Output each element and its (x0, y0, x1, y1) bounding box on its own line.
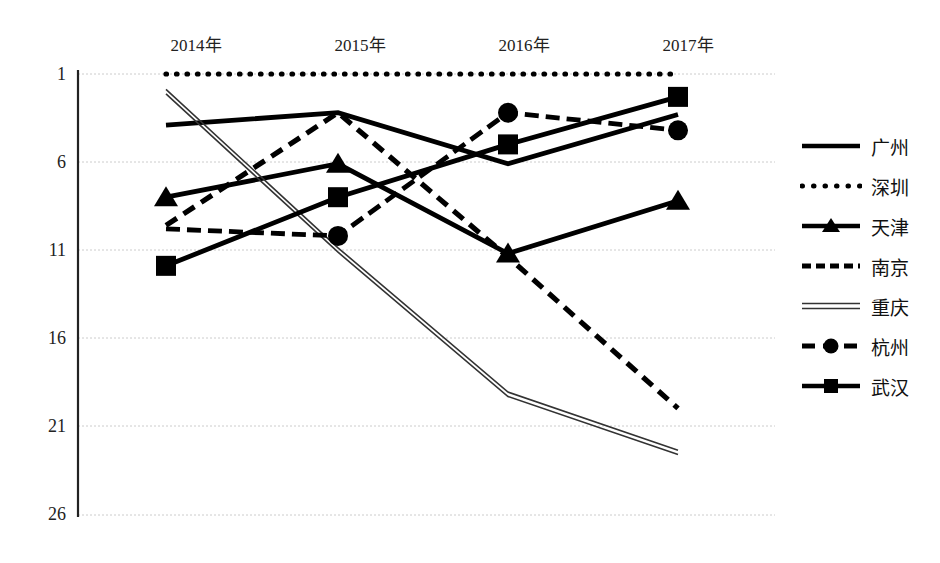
series-4 (166, 89, 678, 454)
rank-line-chart: 2014年 2015年 2016年 2017年 1 6 11 16 21 26 … (0, 0, 940, 563)
legend-label-guangzhou: 广州 (871, 133, 909, 160)
data-point-marker (498, 103, 518, 123)
data-point-marker (668, 87, 688, 107)
series-3 (166, 113, 678, 409)
data-point-marker (326, 153, 350, 173)
legend-key-dashed-icon (800, 255, 862, 277)
legend-item-wuhan: 武汉 (800, 366, 935, 406)
legend-key-solid-icon (800, 135, 862, 157)
legend-label-shenzhen: 深圳 (871, 173, 909, 200)
chart-legend: 广州 深圳 天津 南京 重庆 (800, 126, 935, 406)
data-point-marker (328, 187, 348, 207)
data-point-marker (156, 256, 176, 276)
legend-item-shenzhen: 深圳 (800, 166, 935, 206)
legend-item-chongqing: 重庆 (800, 286, 935, 326)
legend-item-hangzhou: 杭州 (800, 326, 935, 366)
plot-area (0, 0, 940, 563)
legend-key-thin-double-icon (800, 295, 862, 317)
data-point-marker (666, 190, 690, 210)
legend-label-hangzhou: 杭州 (871, 333, 909, 360)
legend-item-guangzhou: 广州 (800, 126, 935, 166)
legend-item-tianjin: 天津 (800, 206, 935, 246)
legend-key-solid-square-icon (800, 375, 862, 397)
legend-item-nanjing: 南京 (800, 246, 935, 286)
legend-label-chongqing: 重庆 (871, 293, 909, 320)
data-point-marker (668, 120, 688, 140)
legend-label-nanjing: 南京 (871, 253, 909, 280)
legend-key-solid-triangle-icon (800, 215, 862, 237)
data-point-marker (328, 226, 348, 246)
data-point-marker (498, 134, 518, 154)
legend-key-dotted-icon (800, 175, 862, 197)
legend-key-dashdot-circle-icon (800, 335, 862, 357)
series-layer (154, 74, 690, 455)
legend-label-tianjin: 天津 (871, 213, 909, 240)
legend-label-wuhan: 武汉 (871, 373, 909, 400)
